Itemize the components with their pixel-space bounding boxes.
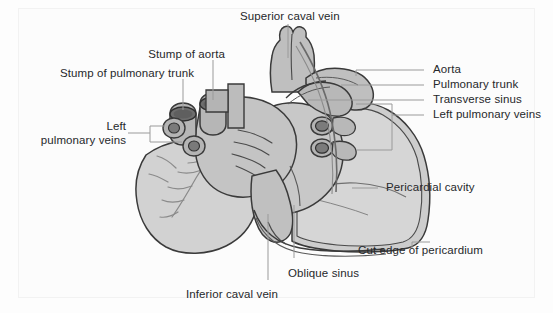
ascending-vessel-stub <box>228 84 244 128</box>
label-pericardial-cavity: Pericardial cavity <box>386 181 475 195</box>
label-pulmonary-trunk: Pulmonary trunk <box>433 78 518 92</box>
left-pulmonary-vein-opening-upper <box>163 118 185 138</box>
label-stump-of-pulmonary-trunk: Stump of pulmonary trunk <box>8 67 194 81</box>
left-pulmonary-vein-opening-lower <box>183 136 205 156</box>
label-left-pulmonary-veins-right: Left pulmonary veins <box>433 108 541 122</box>
label-left-pulmonary-veins-left: Left pulmonary veins <box>0 119 126 147</box>
figure-root: Superior caval vein Stump of aorta Stump… <box>0 0 553 313</box>
ascending-vessel-stub-2 <box>206 90 228 112</box>
label-oblique-sinus: Oblique sinus <box>288 267 359 281</box>
heart-pericardium-illustration <box>0 0 553 313</box>
label-stump-of-aorta: Stump of aorta <box>58 48 225 62</box>
label-transverse-sinus: Transverse sinus <box>433 93 522 107</box>
label-inferior-caval-vein: Inferior caval vein <box>186 288 278 302</box>
label-aorta: Aorta <box>433 63 461 77</box>
left-pulmonary-vein-orifice-lower <box>311 139 333 157</box>
label-superior-caval-vein: Superior caval vein <box>240 10 340 24</box>
leader-aorta <box>356 70 424 76</box>
label-cut-edge-of-pericardium: Cut edge of pericardium <box>358 244 483 258</box>
